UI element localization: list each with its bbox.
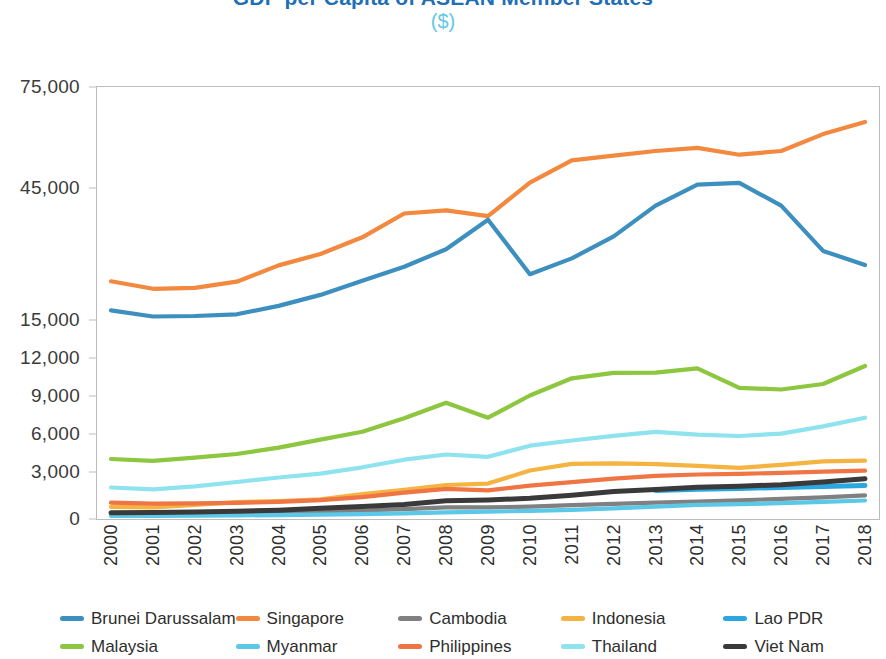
y-axis-tick-label: 3,000	[31, 461, 80, 483]
legend-item-label: Malaysia	[91, 638, 158, 655]
legend-item[interactable]: Philippines	[398, 638, 561, 655]
y-axis-tick-label: 6,000	[31, 423, 80, 445]
legend-item-label: Myanmar	[267, 638, 338, 655]
chart-canvas: 03,0006,0009,00012,00015,00045,00075,000…	[0, 0, 886, 659]
legend-swatch-icon	[236, 644, 260, 649]
x-axis-tick-label: 2008	[436, 524, 457, 566]
x-axis-tick-label: 2009	[478, 524, 499, 566]
legend-item[interactable]: Indonesia	[561, 610, 724, 627]
x-axis-tick-label: 2014	[687, 524, 708, 566]
x-axis-tick-label: 2010	[520, 524, 541, 566]
legend-swatch-icon	[60, 644, 84, 649]
y-axis-tick-label: 9,000	[31, 385, 80, 407]
series-line	[111, 366, 865, 461]
x-axis-tick-label: 2000	[101, 524, 122, 566]
x-axis-tick-label: 2011	[562, 524, 583, 565]
y-axis-tick-label: 75,000	[20, 76, 80, 98]
legend-item[interactable]: Myanmar	[236, 638, 399, 655]
legend-item-label: Cambodia	[429, 610, 507, 627]
legend-swatch-icon	[236, 616, 260, 621]
legend-item[interactable]: Singapore	[236, 610, 399, 627]
legend-swatch-icon	[561, 644, 585, 649]
legend-item-label: Lao PDR	[754, 610, 823, 627]
legend-item-label: Viet Nam	[754, 638, 824, 655]
x-axis-tick-label: 2012	[604, 524, 625, 566]
plot-area	[96, 86, 880, 520]
y-axis-tick-label: 0	[69, 508, 80, 530]
x-axis-labels: 2000200120022003200420052006200720082009…	[96, 524, 880, 604]
legend-swatch-icon	[398, 616, 422, 621]
legend-item-label: Indonesia	[592, 610, 666, 627]
legend-item[interactable]: Brunei Darussalam	[60, 610, 236, 627]
x-axis-tick-label: 2018	[855, 524, 876, 566]
legend-swatch-icon	[398, 644, 422, 649]
y-axis-labels: 03,0006,0009,00012,00015,00045,00075,000	[0, 0, 88, 659]
legend-swatch-icon	[723, 644, 747, 649]
legend-item-label: Singapore	[267, 610, 345, 627]
x-axis-tick-label: 2013	[646, 524, 667, 566]
y-axis-tick-label: 12,000	[20, 347, 80, 369]
series-line	[111, 183, 865, 317]
legend-item[interactable]: Viet Nam	[723, 638, 886, 655]
x-axis-tick-label: 2016	[771, 524, 792, 566]
chart-legend: Brunei DarussalamSingaporeCambodiaIndone…	[60, 604, 886, 659]
legend-item[interactable]: Thailand	[561, 638, 724, 655]
legend-item-label: Philippines	[429, 638, 511, 655]
x-axis-tick-label: 2005	[310, 524, 331, 566]
series-lines	[97, 87, 879, 519]
y-axis-tick-label: 15,000	[20, 309, 80, 331]
legend-item-label: Thailand	[592, 638, 657, 655]
legend-swatch-icon	[60, 616, 84, 621]
legend-item[interactable]: Lao PDR	[723, 610, 886, 627]
y-axis-tick-label: 45,000	[20, 177, 80, 199]
x-axis-tick-label: 2004	[269, 524, 290, 566]
legend-item[interactable]: Malaysia	[60, 638, 236, 655]
x-axis-tick-label: 2015	[729, 524, 750, 566]
x-axis-tick-label: 2001	[143, 524, 164, 566]
x-axis-tick-label: 2007	[394, 524, 415, 566]
x-axis-tick-label: 2006	[352, 524, 373, 566]
legend-swatch-icon	[561, 616, 585, 621]
x-axis-tick-label: 2017	[813, 524, 834, 566]
legend-item[interactable]: Cambodia	[398, 610, 561, 627]
series-line	[111, 122, 865, 289]
legend-swatch-icon	[723, 616, 747, 621]
x-axis-tick-label: 2002	[185, 524, 206, 566]
legend-item-label: Brunei Darussalam	[91, 610, 236, 627]
x-axis-tick-label: 2003	[227, 524, 248, 566]
